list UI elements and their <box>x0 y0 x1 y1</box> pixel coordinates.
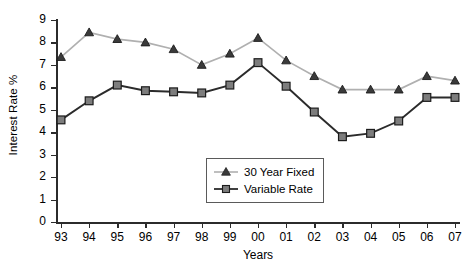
x-axis-tick <box>427 222 428 228</box>
y-axis-tick-label: 5 <box>30 103 46 115</box>
x-axis-tick <box>145 222 146 228</box>
x-axis-tick <box>89 222 90 228</box>
y-axis-tick-label: 2 <box>30 170 46 182</box>
series-variable-rate <box>57 59 459 141</box>
data-point-square <box>113 81 121 89</box>
x-axis-tick-label: 04 <box>358 231 384 244</box>
x-axis-tick <box>202 222 203 228</box>
interest-rate-line-chart: Interest Rate % 0123456789 9394959697989… <box>0 0 469 273</box>
x-axis-tick <box>399 222 400 228</box>
x-axis-tick-label: 94 <box>76 231 102 244</box>
x-axis-tick-label: 06 <box>414 231 440 244</box>
x-axis-tick <box>286 222 287 228</box>
data-point-square <box>395 117 403 125</box>
data-point-square <box>282 82 290 90</box>
x-axis-tick <box>230 222 231 228</box>
legend-item-variable-rate: Variable Rate <box>213 180 314 197</box>
x-axis-tick-label: 95 <box>104 231 130 244</box>
data-point-triangle <box>254 34 263 42</box>
x-axis-tick-label: 97 <box>161 231 187 244</box>
y-axis-title-container: Interest Rate % <box>0 0 26 230</box>
data-point-square <box>423 94 431 102</box>
x-axis-tick <box>371 222 372 228</box>
legend-label-30-year-fixed: 30 Year Fixed <box>244 166 314 178</box>
x-axis-tick-label: 05 <box>386 231 412 244</box>
y-axis-tick-label: 8 <box>30 35 46 47</box>
data-point-square <box>367 129 375 137</box>
x-axis-tick <box>61 222 62 228</box>
x-axis-tick-label: 02 <box>301 231 327 244</box>
y-axis-tick: 0 <box>51 222 57 223</box>
data-point-square <box>198 89 206 97</box>
triangle-marker-icon <box>213 165 239 179</box>
x-axis-tick-label: 99 <box>217 231 243 244</box>
y-axis-tick-label: 6 <box>30 80 46 92</box>
y-axis-tick-label: 0 <box>30 215 46 227</box>
plot-area: 0123456789 93949596979899000102030405060… <box>56 20 460 222</box>
legend: 30 Year Fixed Variable Rate <box>206 158 324 203</box>
data-point-triangle <box>310 72 319 80</box>
x-axis-tick-label: 00 <box>245 231 271 244</box>
data-point-square <box>142 87 150 95</box>
data-point-square <box>254 59 262 67</box>
square-marker-icon <box>213 182 239 196</box>
data-point-triangle <box>85 28 94 36</box>
y-axis-tick-label: 9 <box>30 13 46 25</box>
y-axis-tick-label: 4 <box>30 125 46 137</box>
x-axis-tick <box>455 222 456 228</box>
x-axis-tick <box>174 222 175 228</box>
data-point-square <box>310 108 318 116</box>
x-axis-title: Years <box>56 248 460 262</box>
x-axis-tick <box>117 222 118 228</box>
x-axis-tick <box>258 222 259 228</box>
series-line <box>61 63 455 137</box>
x-axis-tick-label: 07 <box>442 231 468 244</box>
y-axis-tick-label: 1 <box>30 193 46 205</box>
x-axis-tick <box>314 222 315 228</box>
legend-item-30-year-fixed: 30 Year Fixed <box>213 163 314 180</box>
y-axis-tick-label: 7 <box>30 58 46 70</box>
legend-label-variable-rate: Variable Rate <box>244 183 313 195</box>
data-point-triangle <box>422 72 431 80</box>
x-axis-tick-label: 98 <box>189 231 215 244</box>
data-point-square <box>57 116 65 124</box>
y-axis-title: Interest Rate % <box>7 75 19 156</box>
data-point-square <box>339 133 347 141</box>
data-point-square <box>451 94 459 102</box>
data-point-square <box>170 88 178 96</box>
data-point-square <box>85 97 93 105</box>
data-point-square <box>226 81 234 89</box>
y-axis-tick-label: 3 <box>30 148 46 160</box>
data-point-triangle <box>225 49 234 57</box>
x-axis-tick-label: 93 <box>48 231 74 244</box>
x-axis-tick-label: 96 <box>132 231 158 244</box>
x-axis-tick-label: 03 <box>329 231 355 244</box>
x-axis-tick <box>342 222 343 228</box>
x-axis-tick-label: 01 <box>273 231 299 244</box>
